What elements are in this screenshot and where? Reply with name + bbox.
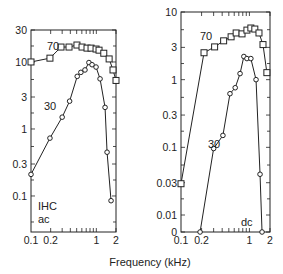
x-axis-label: Frequency (kHz) xyxy=(109,256,190,268)
y-tick-label: 0 xyxy=(171,226,177,238)
square-marker xyxy=(66,44,72,50)
circle-marker xyxy=(228,91,233,96)
y-tick-label: 0.1 xyxy=(162,141,177,153)
circle-marker xyxy=(83,68,88,73)
x-tick-label: 1 xyxy=(93,234,99,246)
y-tick-label: 0.01 xyxy=(157,209,178,221)
square-marker xyxy=(101,50,107,56)
square-marker xyxy=(221,38,227,44)
circle-marker xyxy=(103,105,108,110)
y-tick-label: 0.3 xyxy=(162,109,177,121)
circle-marker xyxy=(60,115,65,120)
curve-label-30: 30 xyxy=(44,100,56,112)
circle-marker xyxy=(109,198,114,203)
panel-dc: 0.10.21210310.30.10.030.0107030dc xyxy=(157,6,274,246)
square-marker xyxy=(113,77,119,83)
circle-marker xyxy=(98,77,103,82)
square-marker xyxy=(110,67,116,73)
square-marker xyxy=(212,44,218,50)
circle-marker xyxy=(105,150,110,155)
curve-label-70: 70 xyxy=(47,40,59,52)
series-line-70 xyxy=(181,28,267,184)
x-tick-label: 0.1 xyxy=(24,234,39,246)
y-tick-label: 1 xyxy=(171,74,177,86)
circle-marker xyxy=(94,65,99,70)
circle-marker xyxy=(258,172,263,177)
square-marker xyxy=(178,181,184,187)
y-tick-label: 10 xyxy=(165,6,177,18)
square-marker xyxy=(28,59,34,65)
chart-figure: 0.10.2123010310.30.17030IHCac 0.10.21210… xyxy=(0,0,283,274)
panel-label: ac xyxy=(38,213,50,225)
y-tick-label: 0.03 xyxy=(157,177,178,189)
circle-marker xyxy=(233,85,238,90)
x-tick-label: 2 xyxy=(267,234,273,246)
square-marker xyxy=(233,30,239,36)
circle-marker xyxy=(254,77,259,82)
circle-marker xyxy=(198,230,203,235)
y-tick-label: 0.3 xyxy=(12,158,27,170)
y-tick-label: 3 xyxy=(21,91,27,103)
panel-ihc-ac: 0.10.2123010310.30.17030IHCac xyxy=(12,24,119,246)
circle-marker xyxy=(48,136,53,141)
x-tick-label: 2 xyxy=(113,234,119,246)
panel-label: dc xyxy=(241,216,253,228)
circle-marker xyxy=(260,230,265,235)
y-tick-label: 1 xyxy=(21,123,27,135)
square-marker xyxy=(260,42,266,48)
square-marker xyxy=(47,55,53,61)
circle-marker xyxy=(75,74,80,79)
circle-marker xyxy=(29,172,34,177)
square-marker xyxy=(106,56,112,62)
circle-marker xyxy=(221,133,226,138)
x-tick-label: 0.2 xyxy=(43,234,58,246)
curve-label-30: 30 xyxy=(208,138,220,150)
y-tick-label: 3 xyxy=(171,41,177,53)
square-marker xyxy=(264,70,270,76)
circle-marker xyxy=(238,71,243,76)
circle-marker xyxy=(67,99,72,104)
x-tick-label: 1 xyxy=(246,234,252,246)
curve-label-70: 70 xyxy=(200,30,212,42)
square-marker xyxy=(201,50,207,56)
series-line-30 xyxy=(31,63,111,201)
y-tick-label: 10 xyxy=(15,56,27,68)
y-tick-label: 30 xyxy=(15,24,27,36)
square-marker xyxy=(256,30,262,36)
y-tick-label: 0.1 xyxy=(12,190,27,202)
panel-label: IHC xyxy=(38,200,57,212)
circle-marker xyxy=(249,56,254,61)
x-tick-label: 0.2 xyxy=(194,234,209,246)
